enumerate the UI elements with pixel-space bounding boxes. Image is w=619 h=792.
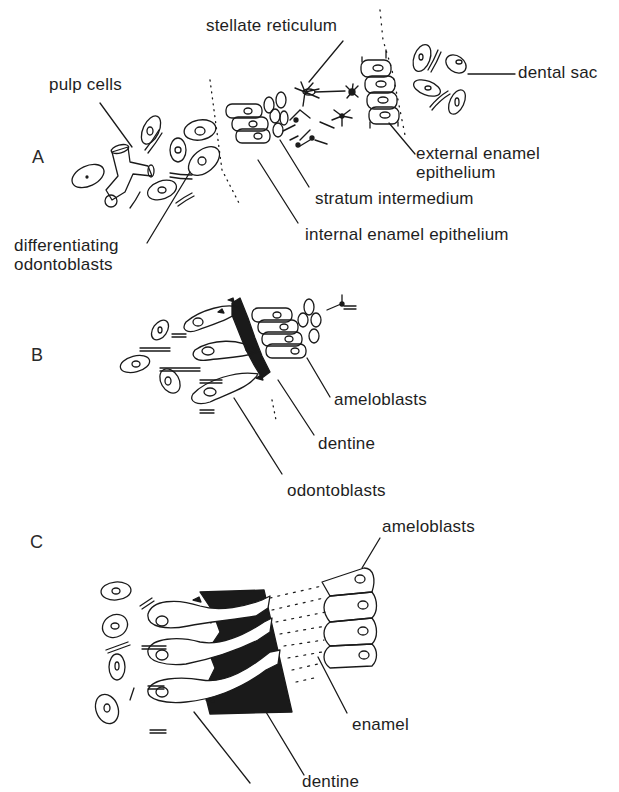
panel-letter-a: A: [32, 147, 44, 168]
label-external-enamel-epithelium-line1: external enamel: [416, 144, 540, 163]
panel-letter-b: B: [31, 345, 43, 366]
label-dentine-b: dentine: [318, 434, 375, 453]
label-dentine-c-visible: dentine: [302, 772, 359, 791]
label-stratum-intermedium: stratum intermedium: [315, 189, 474, 208]
label-differentiating-odontoblasts: differentiating odontoblasts: [14, 236, 119, 274]
label-differentiating-odontoblasts-line2: odontoblasts: [14, 255, 119, 274]
label-differentiating-odontoblasts-line1: differentiating: [14, 236, 119, 255]
panel-a-drawing: [68, 10, 515, 243]
label-internal-enamel-epithelium: internal enamel epithelium: [305, 225, 509, 244]
label-external-enamel-epithelium: external enamel epithelium: [416, 144, 540, 182]
panel-letter-c: C: [30, 532, 43, 553]
label-ameloblasts-c: ameloblasts: [382, 517, 475, 536]
label-stellate-reticulum: stellate reticulum: [206, 16, 337, 35]
diagram-artwork: [0, 0, 619, 792]
panel-c-drawing: [92, 538, 380, 783]
label-pulp-cells: pulp cells: [49, 75, 122, 94]
label-external-enamel-epithelium-line2: epithelium: [416, 163, 540, 182]
label-dental-sac: dental sac: [518, 63, 598, 82]
label-odontoblasts-b: odontoblasts: [287, 481, 386, 500]
label-enamel-c: enamel: [352, 715, 409, 734]
label-ameloblasts-b: ameloblasts: [334, 390, 427, 409]
